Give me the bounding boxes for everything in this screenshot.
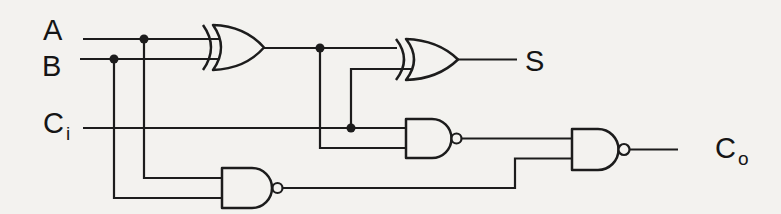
xor-gate-2 xyxy=(396,39,458,80)
co-base: C xyxy=(715,132,736,164)
nand2-bubble-icon xyxy=(273,183,283,193)
wire-nand2-to-nand3 xyxy=(283,159,573,189)
nand3-bubble-icon xyxy=(619,144,630,155)
nand-gate-2 xyxy=(222,168,283,208)
nand-gate-3 xyxy=(572,129,630,170)
xor2-body-icon xyxy=(406,39,458,80)
xor-gate-1 xyxy=(203,25,264,70)
junction-dot-ci xyxy=(347,124,356,133)
xor1-body-icon xyxy=(213,25,264,70)
nand-gate-1 xyxy=(406,119,462,158)
output-label-co: Co xyxy=(715,132,749,169)
input-label-ci: Ci xyxy=(43,107,70,144)
nand1-body-icon xyxy=(406,119,451,158)
nand3-body-icon xyxy=(572,129,619,170)
nand1-bubble-icon xyxy=(452,134,462,144)
co-subscript: o xyxy=(738,148,749,169)
nand2-body-icon xyxy=(222,168,272,208)
full-adder-schematic: A B Ci S Co xyxy=(0,0,781,214)
xor2-back-arc-icon xyxy=(396,39,404,80)
ci-subscript: i xyxy=(66,123,70,144)
junction-dot-a xyxy=(140,35,149,44)
wire-xor1-branch-to-nand1 xyxy=(320,48,406,148)
wire-ci-branch-to-xor2 xyxy=(351,69,412,128)
input-label-b: B xyxy=(42,50,61,82)
output-label-s: S xyxy=(525,45,544,77)
junction-dot-xor1-out xyxy=(316,44,325,53)
junction-dot-b xyxy=(110,55,119,64)
circuit-diagram: A B Ci S Co xyxy=(0,0,781,214)
ci-base: C xyxy=(43,107,64,139)
input-label-a: A xyxy=(43,14,63,46)
xor1-back-arc-icon xyxy=(203,25,211,70)
